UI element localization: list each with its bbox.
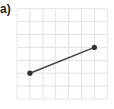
segment-end-point	[92, 45, 97, 50]
segment-start-point	[27, 71, 32, 76]
grid-lines	[17, 9, 107, 99]
grid-diagram	[0, 0, 114, 109]
